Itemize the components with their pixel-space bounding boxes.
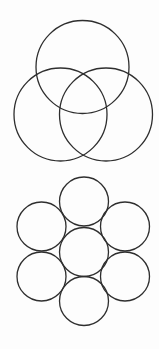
- seven-circle-hexagonal-packing-circle-upper-right: [101, 202, 150, 251]
- three-circle-venn-circle-top: [36, 21, 129, 114]
- three-circle-venn-circle-left: [14, 68, 107, 161]
- seven-circle-hexagonal-packing-circle-upper-left: [17, 202, 66, 251]
- seven-circle-hexagonal-packing-circle-lower-left: [17, 252, 66, 301]
- seven-circle-hexagonal-packing: [17, 177, 150, 326]
- seven-circle-hexagonal-packing-circle-bottom: [60, 277, 109, 326]
- diagram-canvas: [0, 0, 159, 349]
- three-circle-venn: [14, 21, 153, 162]
- three-circle-venn-circle-right: [60, 68, 153, 161]
